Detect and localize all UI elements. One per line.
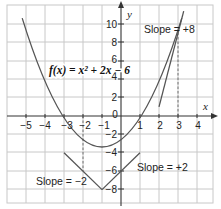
slope-annotation-pos8: Slope = +8 bbox=[144, 23, 195, 35]
y-tick-label: −8 bbox=[106, 184, 118, 195]
x-axis-arrow-icon bbox=[211, 113, 218, 119]
x-tick-label: −3 bbox=[61, 120, 73, 131]
x-axis-label: x bbox=[202, 100, 208, 112]
y-tick-label: 2 bbox=[111, 92, 117, 103]
x-tick-label: −5 bbox=[20, 120, 32, 131]
y-tick-label: −2 bbox=[106, 129, 118, 140]
slope-annotation-neg2: Slope = −2 bbox=[36, 175, 87, 187]
function-label: f(x) = x² + 2x − 6 bbox=[49, 64, 130, 77]
x-tick-label: −2 bbox=[79, 120, 91, 131]
slope-annotation-pos2: Slope = +2 bbox=[137, 161, 188, 173]
x-tick-label: 1 bbox=[137, 120, 143, 131]
y-tick-label: 10 bbox=[106, 19, 118, 30]
y-tick-label: 8 bbox=[111, 37, 117, 48]
origin-label: 0 bbox=[112, 109, 118, 120]
x-tick-label: 4 bbox=[195, 120, 201, 131]
y-tick-labels: 10 8 6 4 2 −2 −4 −6 −8 bbox=[106, 19, 118, 195]
x-tick-label: −4 bbox=[39, 120, 51, 131]
x-tick-label: 2 bbox=[157, 120, 163, 131]
y-tick-label: −4 bbox=[106, 147, 118, 158]
x-tick-labels: −5 −4 −3 −2 −1 1 2 3 4 0 bbox=[20, 109, 201, 131]
x-tick-label: 3 bbox=[176, 120, 182, 131]
y-axis-label: y bbox=[126, 8, 132, 20]
dashed-guides bbox=[83, 33, 178, 171]
y-tick-label: −6 bbox=[106, 165, 118, 176]
function-graph: −5 −4 −3 −2 −1 1 2 3 4 0 10 8 6 4 2 −2 −… bbox=[0, 0, 221, 209]
